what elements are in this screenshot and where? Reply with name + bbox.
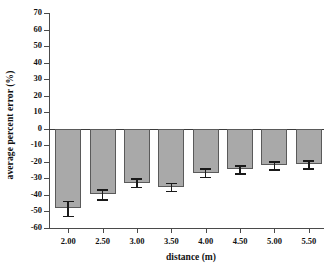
y-axis-line [49,13,50,229]
y-tick-mark [44,96,49,97]
y-tick-label: -60 [31,222,42,233]
error-bar-line [67,201,69,216]
x-tick-mark [206,228,207,233]
x-tick-mark [309,228,310,233]
bar [55,129,81,208]
y-tick-mark [44,162,49,163]
error-bar-cap-upper [63,201,74,203]
plot-area: 706050403020100-10-20-30-40-50-60 2.002.… [49,13,324,228]
error-bar-cap-upper [131,178,142,180]
x-tick-mark [274,228,275,233]
y-tick-label: 0 [38,123,42,134]
x-axis-line [49,228,324,229]
x-tick-label: 5.50 [289,236,329,246]
y-tick-label: 20 [34,90,43,101]
error-bar-cap-upper [269,161,280,163]
y-tick-mark [44,129,49,130]
error-bar-cap-upper [166,183,177,185]
y-tick-label: 50 [34,40,43,51]
x-tick-mark [68,228,69,233]
y-tick-mark [44,112,49,113]
x-tick-mark [171,228,172,233]
error-bar-cap-upper [97,189,108,191]
error-bar-cap-lower [269,169,280,171]
x-axis-title: distance (m) [50,252,332,262]
y-tick-mark [44,145,49,146]
error-bar-cap-lower [235,173,246,175]
y-tick-label: -10 [31,139,42,150]
y-axis-title: average percent error (%) [2,5,18,245]
x-tick-mark [240,228,241,233]
bar [158,129,184,187]
y-tick-mark [44,46,49,47]
error-bar-cap-upper [303,160,314,162]
x-tick-mark [103,228,104,233]
y-tick-mark [44,211,49,212]
y-tick-mark [44,228,49,229]
error-bar-cap-lower [303,168,314,170]
y-tick-label: 40 [34,57,43,68]
y-tick-label: 70 [34,7,43,18]
y-tick-label: -20 [31,156,42,167]
y-tick-mark [44,13,49,14]
y-tick-label: -50 [31,205,42,216]
bar [227,129,253,170]
error-bar-cap-upper [200,168,211,170]
y-tick-label: 10 [34,106,43,117]
y-tick-mark [44,195,49,196]
y-tick-label: 60 [34,24,43,35]
y-tick-label: -30 [31,172,42,183]
chart-figure: average percent error (%) distance (m) 7… [0,0,332,273]
error-bar-cap-lower [131,187,142,189]
error-bar-cap-lower [200,177,211,179]
bar [193,129,219,173]
y-tick-mark [44,30,49,31]
y-tick-mark [44,79,49,80]
y-tick-mark [44,178,49,179]
error-bar-cap-lower [97,199,108,201]
error-bar-cap-upper [235,165,246,167]
error-bar-cap-lower [166,191,177,193]
bar [261,129,287,165]
y-tick-label: 30 [34,73,43,84]
bar [124,129,150,183]
x-tick-mark [137,228,138,233]
bar [90,129,116,194]
y-tick-label: -40 [31,189,42,200]
y-tick-mark [44,63,49,64]
error-bar-cap-lower [63,216,74,218]
bar [296,129,322,165]
